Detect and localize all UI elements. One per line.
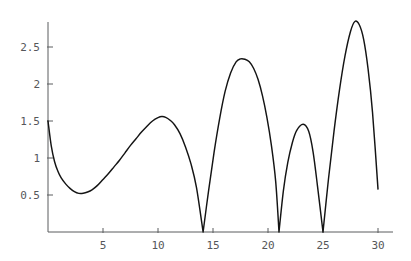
y-tick-label: 2 xyxy=(33,78,40,91)
y-tick-label: 1.5 xyxy=(20,115,40,128)
data-series-curve xyxy=(48,21,378,232)
chart-svg-canvas: 51015202530 0.511.522.5 xyxy=(0,0,411,261)
y-tick-label: 0.5 xyxy=(20,189,40,202)
x-tick-label: 15 xyxy=(206,239,219,252)
chart-plot-area: 51015202530 0.511.522.5 xyxy=(0,0,411,261)
y-tick-label: 2.5 xyxy=(20,41,40,54)
y-tick-label: 1 xyxy=(33,152,40,165)
x-tick-label: 20 xyxy=(261,239,274,252)
x-tick-label: 30 xyxy=(371,239,384,252)
x-tick-label: 5 xyxy=(100,239,107,252)
x-tick-label: 25 xyxy=(316,239,329,252)
x-tick-label: 10 xyxy=(151,239,164,252)
x-axis-tick-labels: 51015202530 xyxy=(100,239,385,252)
y-axis-tick-labels: 0.511.522.5 xyxy=(20,41,40,202)
